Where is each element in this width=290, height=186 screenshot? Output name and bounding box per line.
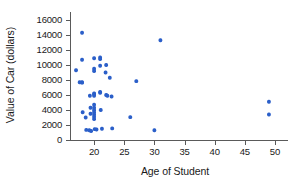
data-point (152, 128, 156, 132)
data-point (92, 117, 96, 121)
data-point (92, 69, 96, 73)
data-point (92, 94, 96, 98)
data-point (88, 94, 92, 98)
data-point (104, 71, 108, 75)
axis-lines (71, 12, 289, 141)
data-point (84, 116, 88, 120)
data-point (98, 91, 102, 95)
data-point (100, 127, 104, 131)
scatter-chart: Value of Car (dollars) 02000400060008000… (0, 0, 290, 186)
data-point (99, 108, 103, 112)
data-point (80, 31, 84, 35)
x-axis-title: Age of Student (70, 165, 280, 178)
data-point (89, 112, 93, 116)
data-point (89, 129, 93, 133)
data-point (98, 57, 102, 61)
data-point (78, 80, 82, 84)
data-point (74, 68, 78, 72)
data-point (110, 95, 114, 99)
data-point (92, 56, 96, 60)
data-point (267, 100, 271, 104)
data-point (81, 110, 85, 114)
data-point (134, 79, 138, 83)
data-point (108, 76, 112, 80)
data-point (98, 64, 102, 68)
data-point (267, 113, 271, 117)
plot-area (0, 0, 290, 186)
data-point (128, 115, 132, 119)
data-point (105, 94, 109, 98)
data-point (104, 63, 108, 67)
data-point (110, 126, 114, 130)
data-point (80, 58, 84, 62)
data-point (159, 38, 163, 42)
data-points (74, 31, 271, 133)
data-point (89, 106, 93, 110)
data-point (95, 128, 99, 132)
axis-tick-marks (66, 21, 275, 146)
